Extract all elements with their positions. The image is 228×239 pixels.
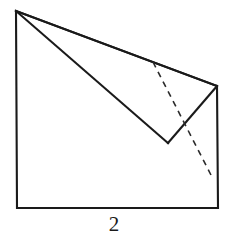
origami-figure-container: 2 [0,0,228,239]
paper-outline-shape [16,11,218,208]
origami-diagram [0,0,228,239]
step-number-caption: 2 [0,211,228,237]
